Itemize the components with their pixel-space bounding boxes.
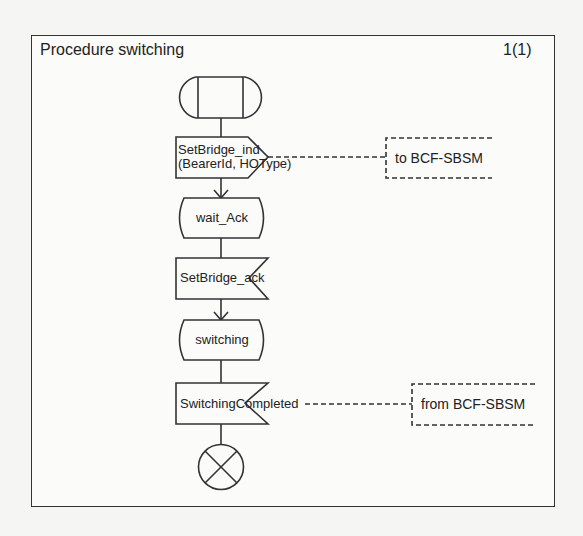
state-label-wait-ack: wait_Ack — [176, 211, 268, 225]
comment-to-bcf-sbsm: to BCF-SBSM — [395, 150, 483, 166]
state-label-switching: switching — [176, 333, 268, 347]
output-signal-params: (BearerId, HOType) — [178, 157, 291, 171]
output-signal-name: SetBridge_ind — [178, 143, 260, 157]
input-signal-label-setbridge-ack: SetBridge_ack — [180, 271, 265, 285]
comment-from-bcf-sbsm: from BCF-SBSM — [421, 396, 525, 412]
input-signal-label-switching-completed: SwitchingCompleted — [180, 397, 299, 411]
stop-icon — [199, 445, 244, 490]
procedure-start-icon — [180, 77, 262, 118]
flow-graphics — [0, 0, 583, 536]
